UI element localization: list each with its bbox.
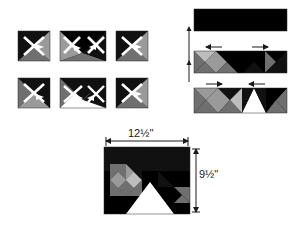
unit-r2c1[interactable] [18, 78, 50, 108]
strip-3[interactable] [194, 88, 287, 113]
quilt-diagram-svg: .dk{fill:#111111;} .bk{fill:#000000;} .m… [0, 0, 296, 228]
diagram-canvas: .dk{fill:#111111;} .bk{fill:#000000;} .m… [0, 0, 296, 228]
pieced-units-grid [18, 31, 148, 108]
unit-r2c3[interactable] [116, 78, 148, 108]
block-width-label: 12½" [128, 127, 153, 139]
height-dimension [192, 149, 200, 212]
unit-r1c2[interactable] [60, 31, 106, 61]
block-height-label: 9½" [199, 168, 218, 180]
unit-r1c1[interactable] [18, 31, 50, 61]
strip-2[interactable] [194, 51, 287, 73]
finished-block[interactable] [104, 137, 200, 214]
row-assembly-strips [187, 9, 288, 113]
unit-r1c3[interactable] [116, 31, 148, 61]
strip-1[interactable] [194, 9, 287, 31]
alignment-guide [187, 26, 192, 82]
unit-r2c2[interactable] [60, 78, 106, 108]
